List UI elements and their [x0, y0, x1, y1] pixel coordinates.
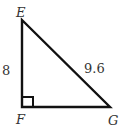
side-label-eg: 9.6 [84, 61, 105, 76]
right-angle-marker [22, 97, 33, 107]
triangle-diagram: E 8 9.6 F G [0, 0, 120, 128]
vertex-label-e: E [15, 5, 26, 20]
vertex-label-g: G [108, 113, 118, 128]
side-label-ef: 8 [2, 63, 10, 78]
vertex-label-f: F [15, 112, 26, 127]
